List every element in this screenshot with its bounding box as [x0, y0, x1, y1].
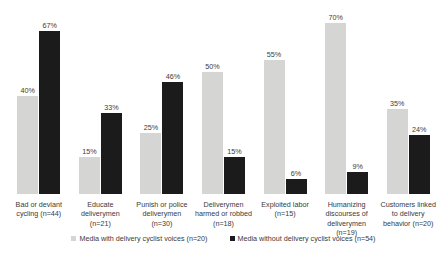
bar-value-label: 15% — [82, 147, 96, 156]
bar-wrap: 9% — [347, 6, 368, 194]
light-square-icon — [71, 236, 76, 241]
legend-item-1[interactable]: Media without delivery cyclist voices (n… — [230, 234, 376, 243]
bar-wrap: 33% — [101, 6, 122, 194]
bar-wrap: 46% — [162, 6, 183, 194]
bar[interactable] — [325, 23, 346, 194]
bar-value-label: 67% — [43, 21, 57, 30]
bar[interactable] — [202, 72, 223, 194]
category-label: Exploited labor (n=15) — [254, 200, 316, 219]
bar-value-label: 35% — [390, 99, 404, 108]
bar-value-label: 15% — [227, 147, 241, 156]
bar-value-label: 25% — [144, 123, 158, 132]
chart-legend: Media with delivery cyclist voices (n=20… — [0, 234, 447, 243]
bar-wrap: 50% — [202, 6, 223, 194]
bar-wrap: 24% — [409, 6, 430, 194]
bar[interactable] — [286, 179, 307, 194]
category-axis: Bad or deviant cycling (n=44)Educate del… — [8, 200, 439, 234]
bar-group: 55%6% — [254, 6, 316, 194]
category-label: Humanizing discourses of deliverymen (n=… — [316, 200, 378, 237]
bar[interactable] — [79, 157, 100, 194]
bar-value-label: 33% — [104, 103, 118, 112]
bar-wrap: 67% — [39, 6, 60, 194]
grouped-bar-chart: 40%67%15%33%25%46%50%15%55%6%70%9%35%24%… — [0, 0, 447, 254]
bar-value-label: 55% — [267, 50, 281, 59]
bar[interactable] — [347, 172, 368, 194]
bar-value-label: 40% — [21, 86, 35, 95]
bar-wrap: 70% — [325, 6, 346, 194]
legend-label-0: Media with delivery cyclist voices (n=20… — [79, 234, 207, 243]
bar-wrap: 15% — [224, 6, 245, 194]
bar-wrap: 25% — [140, 6, 161, 194]
bar-group: 70%9% — [316, 6, 378, 194]
legend-item-0[interactable]: Media with delivery cyclist voices (n=20… — [71, 234, 207, 243]
bar-group: 25%46% — [131, 6, 193, 194]
bar-value-label: 46% — [166, 72, 180, 81]
bar-wrap: 15% — [79, 6, 100, 194]
category-label: Punish or police deliverymen (n=30) — [131, 200, 193, 228]
bar[interactable] — [264, 60, 285, 194]
bar-group: 50%15% — [193, 6, 255, 194]
bar-wrap: 40% — [17, 6, 38, 194]
category-label: Deliverymen harmed or robbed (n=18) — [193, 200, 255, 228]
bar[interactable] — [162, 82, 183, 194]
category-label: Customers linked to delivery behavior (n… — [377, 200, 439, 228]
bar-value-label: 70% — [328, 13, 342, 22]
bar-group: 40%67% — [8, 6, 70, 194]
bar-value-label: 50% — [205, 62, 219, 71]
category-label: Bad or deviant cycling (n=44) — [8, 200, 70, 219]
bar-wrap: 35% — [387, 6, 408, 194]
category-label: Educate deliverymen (n=21) — [70, 200, 132, 228]
bar-value-label: 6% — [291, 169, 301, 178]
bar[interactable] — [39, 31, 60, 194]
bar[interactable] — [224, 157, 245, 194]
bar-group: 35%24% — [377, 6, 439, 194]
bar-wrap: 6% — [286, 6, 307, 194]
bar-value-label: 24% — [412, 125, 426, 134]
bar-value-label: 9% — [352, 162, 362, 171]
bar-wrap: 55% — [264, 6, 285, 194]
bar[interactable] — [409, 135, 430, 194]
bar[interactable] — [17, 96, 38, 194]
bar[interactable] — [140, 133, 161, 194]
plot-area: 40%67%15%33%25%46%50%15%55%6%70%9%35%24% — [8, 6, 439, 194]
bar[interactable] — [101, 113, 122, 194]
bar[interactable] — [387, 109, 408, 194]
legend-label-1: Media without delivery cyclist voices (n… — [238, 234, 376, 243]
dark-square-icon — [230, 236, 235, 241]
bar-group: 15%33% — [70, 6, 132, 194]
